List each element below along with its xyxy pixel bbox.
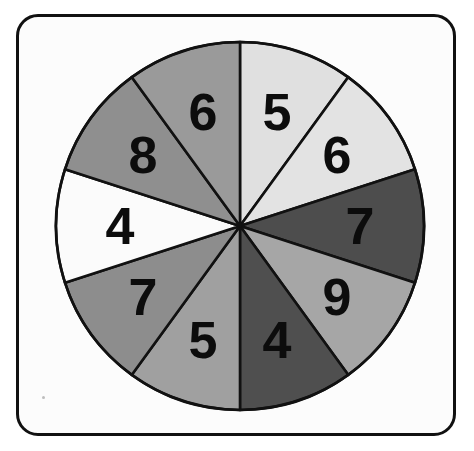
sector-number-label: 6 [323, 126, 352, 184]
spinner-figure: 5679457486 [0, 0, 474, 451]
spinner-wheel: 5679457486 [0, 0, 474, 451]
sector-number-label: 4 [263, 311, 292, 369]
speck-artifact [42, 396, 45, 399]
sector-number-label: 7 [346, 197, 375, 255]
sector-number-label: 9 [323, 268, 352, 326]
sector-number-label: 8 [128, 126, 157, 184]
sector-number-label: 4 [106, 197, 135, 255]
spinner-wheel-svg: 5679457486 [0, 0, 474, 451]
sector-number-label: 6 [188, 83, 217, 141]
sector-number-label: 5 [188, 311, 217, 369]
sector-number-label: 5 [263, 83, 292, 141]
sector-number-label: 7 [128, 268, 157, 326]
